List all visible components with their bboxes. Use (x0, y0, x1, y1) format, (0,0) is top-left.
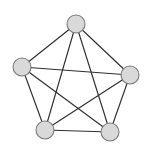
graph-edge (45, 130, 110, 132)
graph-canvas (0, 0, 151, 152)
graph-node (13, 58, 31, 76)
graph-edge (22, 67, 130, 75)
graph-edge (45, 75, 130, 130)
edges-layer (22, 24, 130, 132)
graph-edge (45, 24, 76, 130)
graph-node (101, 123, 119, 141)
graph-node (67, 15, 85, 33)
nodes-layer (13, 15, 139, 141)
graph-edge (22, 67, 110, 132)
graph-edge (22, 67, 45, 130)
graph-edge (22, 24, 76, 67)
graph-figure (0, 0, 151, 152)
graph-node (36, 121, 54, 139)
graph-node (121, 66, 139, 84)
